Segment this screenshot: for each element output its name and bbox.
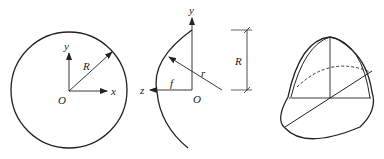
label-f: f xyxy=(170,77,175,89)
label-r: r xyxy=(201,67,206,79)
paraboloid-outline xyxy=(281,37,374,139)
diagram-canvas: y R O x y z f O r R xyxy=(0,0,384,159)
label-O: O xyxy=(193,93,201,105)
figure-section: y z f O r R xyxy=(139,4,252,148)
parabola-arc xyxy=(156,30,192,148)
axis-diagonal xyxy=(285,71,372,127)
hidden-curve-dashed xyxy=(297,66,370,87)
label-O: O xyxy=(58,94,66,106)
label-y: y xyxy=(63,40,69,52)
label-x: x xyxy=(110,85,116,97)
figure-circle: y R O x xyxy=(11,32,127,148)
label-R: R xyxy=(234,55,242,67)
label-z: z xyxy=(139,84,145,96)
label-y: y xyxy=(188,4,194,16)
inner-rim-right xyxy=(330,37,370,98)
figure-paraboloid xyxy=(281,37,374,139)
radius-arrow xyxy=(69,52,112,91)
r-arrow xyxy=(169,57,222,90)
label-R: R xyxy=(82,60,90,72)
